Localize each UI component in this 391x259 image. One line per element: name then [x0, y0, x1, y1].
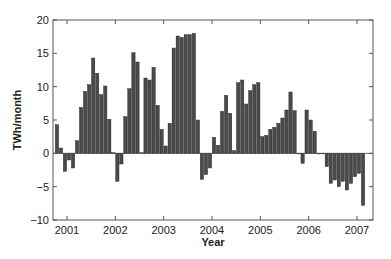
- bar: [59, 148, 62, 153]
- bar: [325, 153, 328, 166]
- bar: [136, 62, 139, 153]
- bar: [345, 153, 348, 190]
- x-tick-label: 2001: [55, 224, 79, 236]
- bar: [293, 111, 296, 154]
- bar: [212, 137, 215, 153]
- bar: [305, 110, 308, 153]
- bar: [277, 123, 280, 153]
- bar: [88, 85, 91, 154]
- bar: [132, 53, 135, 154]
- bar-series: [55, 33, 364, 205]
- bar: [204, 153, 207, 174]
- bar: [192, 33, 195, 153]
- x-tick-label: 2004: [200, 224, 224, 236]
- y-tick-label: 0: [43, 147, 49, 159]
- bar: [341, 153, 344, 181]
- bar: [96, 73, 99, 153]
- bar: [116, 153, 119, 181]
- bar: [79, 107, 82, 153]
- x-axis-title: Year: [201, 236, 225, 248]
- bar: [67, 153, 70, 160]
- bar: [55, 125, 58, 154]
- bar: [196, 120, 199, 153]
- bar: [168, 123, 171, 153]
- bar: [124, 117, 127, 154]
- bar: [83, 91, 86, 153]
- bar: [200, 153, 203, 179]
- bar: [120, 153, 123, 164]
- bar: [63, 153, 66, 171]
- bar: [228, 113, 231, 153]
- bar: [349, 153, 352, 183]
- bar: [172, 48, 175, 153]
- bar: [273, 127, 276, 153]
- bar: [285, 110, 288, 153]
- bar: [176, 36, 179, 153]
- bar: [281, 118, 284, 153]
- bar: [100, 95, 103, 154]
- bar: [180, 37, 183, 153]
- bar: [301, 153, 304, 163]
- x-tick-label: 2002: [103, 224, 127, 236]
- bar: [160, 129, 163, 153]
- bar: [329, 153, 332, 183]
- bar: [92, 58, 95, 153]
- y-tick-label: 10: [37, 81, 49, 93]
- bar: [361, 153, 364, 205]
- bar: [357, 153, 360, 173]
- x-tick-label: 2003: [151, 224, 175, 236]
- bar: [148, 80, 151, 153]
- bar: [249, 91, 252, 154]
- bar: [152, 67, 155, 153]
- bar: [156, 105, 159, 153]
- bar: [104, 86, 107, 153]
- bar: [144, 78, 147, 153]
- bar: [265, 135, 268, 153]
- bar: [71, 153, 74, 168]
- bar: [164, 146, 167, 153]
- bar: [237, 83, 240, 154]
- x-tick-label: 2005: [248, 224, 272, 236]
- bar: [261, 137, 264, 154]
- bar-chart: −10−505101520 20012002200320042005200620…: [0, 0, 391, 259]
- bar: [353, 153, 356, 176]
- bar: [241, 80, 244, 153]
- y-axis-title: TWh/month: [11, 89, 23, 150]
- bar: [188, 35, 191, 154]
- x-tick-label: 2006: [296, 224, 320, 236]
- bar: [75, 141, 78, 154]
- bar: [257, 83, 260, 154]
- bar: [309, 120, 312, 153]
- y-tick-label: −5: [36, 181, 49, 193]
- bar: [184, 35, 187, 154]
- x-tick-label: 2007: [345, 224, 369, 236]
- y-tick-label: 5: [43, 114, 49, 126]
- bar: [337, 153, 340, 186]
- bar: [216, 145, 219, 153]
- bar: [224, 95, 227, 153]
- bar: [253, 85, 256, 154]
- bar: [245, 104, 248, 153]
- bar: [289, 92, 292, 153]
- bar: [269, 129, 272, 153]
- bar: [220, 111, 223, 153]
- y-tick-label: 20: [37, 14, 49, 26]
- bar: [128, 89, 131, 154]
- bar: [108, 119, 111, 153]
- bar: [333, 153, 336, 180]
- y-tick-label: 15: [37, 47, 49, 59]
- y-tick-label: −10: [30, 214, 49, 226]
- bar: [208, 153, 211, 168]
- bar: [313, 131, 316, 153]
